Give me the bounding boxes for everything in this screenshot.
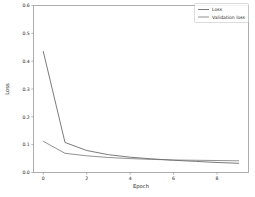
y-tick-label-0: 0.0 bbox=[22, 170, 29, 175]
y-tick-label-2: 0.2 bbox=[22, 115, 29, 120]
chart-figure: 0.00.10.20.30.40.50.6 02468 Epoch Loss L… bbox=[0, 0, 255, 197]
y-tick-label-5: 0.5 bbox=[22, 31, 29, 36]
chart-legend[interactable]: Loss Validation loss bbox=[195, 4, 249, 23]
loss-curve-chart: 0.00.10.20.30.40.50.6 02468 Epoch Loss L… bbox=[0, 0, 255, 197]
y-tick-label-1: 0.1 bbox=[22, 142, 29, 147]
y-tick-label-4: 0.4 bbox=[22, 59, 29, 64]
legend-label-validation-loss: Validation loss bbox=[212, 15, 246, 20]
y-tick-label-6: 0.6 bbox=[22, 3, 29, 8]
x-tick-label-4: 8 bbox=[216, 176, 219, 181]
x-tick-label-2: 4 bbox=[129, 176, 132, 181]
y-tick-label-3: 0.3 bbox=[22, 87, 29, 92]
x-tick-label-0: 0 bbox=[42, 176, 45, 181]
x-tick-label-1: 2 bbox=[85, 176, 88, 181]
y-axis-title: Loss bbox=[4, 83, 10, 95]
legend-label-loss: Loss bbox=[212, 7, 223, 12]
x-axis-title: Epoch bbox=[133, 183, 149, 190]
x-tick-label-3: 6 bbox=[172, 176, 175, 181]
figure-background bbox=[0, 0, 255, 197]
